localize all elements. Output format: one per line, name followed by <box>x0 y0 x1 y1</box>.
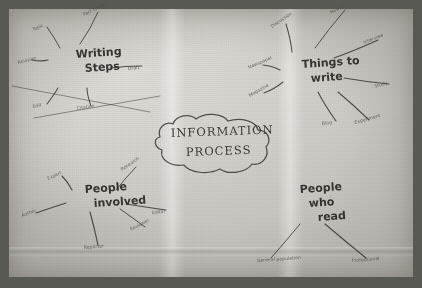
leaf-label-writing-steps-0: Topic <box>31 23 45 33</box>
leaf-label-people-involved-5: Reporter <box>84 243 104 250</box>
leaf-label-people-involved-1: Research <box>120 156 140 172</box>
leaf-label-writing-steps-5: Citation <box>76 103 95 111</box>
connector-people-who-read-1 <box>325 224 366 258</box>
connector-writing-steps-0 <box>47 27 60 48</box>
connector-things-to-write-3 <box>263 65 280 70</box>
connector-people-involved-5 <box>90 212 98 245</box>
hub-label-people-who-read-line2: who <box>308 195 335 210</box>
hub-label-people-involved-line1: People <box>84 180 127 196</box>
leaf-label-writing-steps-1: Fact check <box>82 2 106 17</box>
guide-line-1 <box>34 96 160 118</box>
leaf-label-people-who-read-1: Professional <box>352 256 380 263</box>
connector-things-to-write-6 <box>318 92 336 121</box>
leaf-label-writing-steps-2: Revision <box>17 55 37 65</box>
connector-things-to-write-7 <box>338 92 369 120</box>
leaf-label-people-involved-0: Expert <box>46 170 62 181</box>
leaf-label-things-to-write-3: Newspaper <box>247 55 273 70</box>
hub-label-people-who-read-line1: People <box>299 180 342 196</box>
connector-people-involved-0 <box>62 176 72 190</box>
connector-things-to-write-1 <box>315 10 345 48</box>
center-label-line1: INFORMATION <box>171 122 274 140</box>
leaf-label-things-to-write-7: Experiment <box>354 113 381 125</box>
connector-things-to-write-0 <box>286 24 292 52</box>
leaf-label-things-to-write-0: Discussion <box>270 11 293 29</box>
leaf-label-people-involved-3: Editor <box>152 209 166 215</box>
leaf-label-writing-steps-3: Draft <box>128 65 140 71</box>
hub-label-things-to-write-line2: write <box>310 70 343 85</box>
hub-label-things-to-write-line1: Things to <box>301 54 360 71</box>
hub-label-writing-steps-line1: Writing <box>75 45 122 61</box>
center-label-line2: PROCESS <box>186 143 252 159</box>
leaf-label-things-to-write-2: Interview <box>363 32 385 45</box>
leaf-label-things-to-write-1: How to <box>329 3 346 15</box>
mindmap-ink-layer: TopicFact checkRevisionDraftEditCitation… <box>0 0 422 288</box>
hub-label-writing-steps-line2: Steps <box>84 60 120 75</box>
connector-people-involved-2 <box>36 203 66 213</box>
connector-people-who-read-0 <box>271 224 300 258</box>
connector-writing-steps-1 <box>80 12 98 44</box>
leaf-label-things-to-write-4: Study <box>374 80 388 89</box>
hub-label-people-who-read-line3: read <box>317 209 346 224</box>
hub-label-people-involved-line2: involved <box>93 193 146 210</box>
leaf-label-writing-steps-4: Edit <box>32 102 42 109</box>
leaf-label-people-who-read-0: General population <box>257 255 301 263</box>
leaf-label-things-to-write-6: Blog <box>321 120 332 126</box>
screenshot-root: TopicFact checkRevisionDraftEditCitation… <box>0 0 422 288</box>
leaf-label-things-to-write-5: Magazine <box>248 82 270 97</box>
connector-writing-steps-4 <box>47 88 58 104</box>
leaf-label-people-involved-4: Reviewer <box>129 218 150 232</box>
leaf-label-people-involved-2: Author <box>21 208 37 218</box>
